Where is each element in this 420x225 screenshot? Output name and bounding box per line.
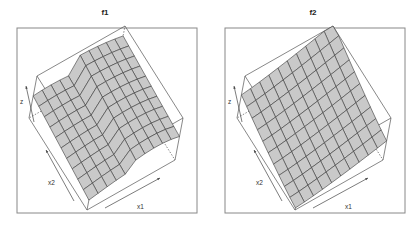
panel-f1: f1 x1x2z — [0, 0, 210, 225]
surface-plot-f1: x1x2z — [0, 0, 210, 225]
panel-f2: f2 x1x2z — [208, 0, 418, 225]
axis-label-x2: x2 — [256, 179, 263, 186]
box-edge — [175, 118, 183, 160]
axis-arrow — [26, 86, 34, 122]
axis-label-z: z — [20, 98, 23, 105]
axis-label-x2: x2 — [48, 179, 55, 186]
axis-arrow — [234, 86, 242, 122]
axis-label-z: z — [228, 98, 231, 105]
surface-plot-f2: x1x2z — [208, 0, 418, 225]
axis-label-x1: x1 — [345, 203, 352, 210]
axis-label-x1: x1 — [137, 203, 144, 210]
